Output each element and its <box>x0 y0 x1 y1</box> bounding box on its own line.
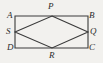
vertex-label-d: D <box>7 43 14 52</box>
vertex-label-r: R <box>49 51 55 60</box>
vertex-label-c: C <box>89 43 95 52</box>
vertex-label-b: B <box>89 11 95 20</box>
vertex-label-p: P <box>48 2 54 11</box>
geometry-figure: A B C D P Q R S <box>0 0 103 63</box>
vertex-label-q: Q <box>90 27 97 36</box>
vertex-label-s: S <box>6 27 11 36</box>
vertex-label-a: A <box>7 11 13 20</box>
